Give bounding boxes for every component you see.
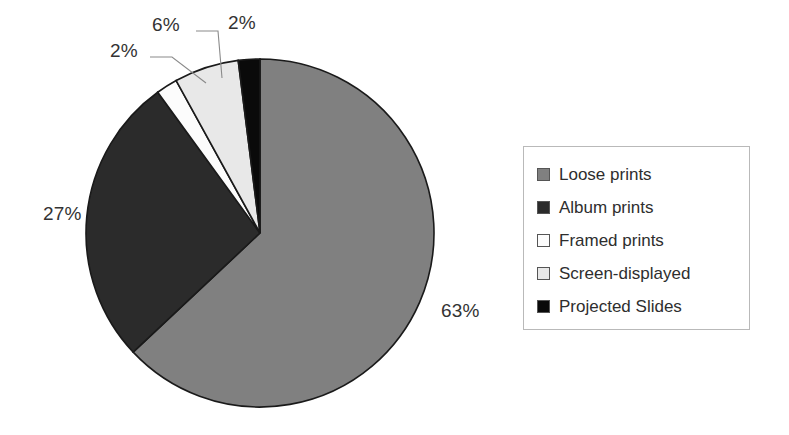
data-label-projected-slides: 2% — [228, 12, 256, 34]
legend-item-label: Framed prints — [559, 232, 664, 249]
legend-item-album-prints[interactable]: Album prints — [537, 191, 749, 224]
legend-swatch-icon — [537, 234, 550, 247]
legend-swatch-icon — [537, 267, 550, 280]
legend-item-loose-prints[interactable]: Loose prints — [537, 158, 749, 191]
legend-item-label: Projected Slides — [559, 298, 682, 315]
data-label-loose-prints: 63% — [441, 300, 480, 322]
pie-chart-figure: 63% 27% 2% 6% 2% Loose printsAlbum print… — [0, 0, 789, 435]
legend-item-label: Screen-displayed — [559, 265, 690, 282]
legend-swatch-icon — [537, 201, 550, 214]
legend-swatch-icon — [537, 300, 550, 313]
legend-item-projected-slides[interactable]: Projected Slides — [537, 290, 749, 323]
legend-item-label: Loose prints — [559, 166, 652, 183]
legend-item-framed-prints[interactable]: Framed prints — [537, 224, 749, 257]
pie-slice-group — [86, 59, 434, 407]
data-label-album-prints: 27% — [43, 203, 82, 225]
data-label-screen-displayed: 6% — [152, 14, 180, 36]
chart-legend: Loose printsAlbum printsFramed printsScr… — [523, 146, 750, 330]
legend-item-label: Album prints — [559, 199, 653, 216]
legend-item-screen-displayed[interactable]: Screen-displayed — [537, 257, 749, 290]
data-label-framed-prints: 2% — [110, 40, 138, 62]
legend-swatch-icon — [537, 168, 550, 181]
